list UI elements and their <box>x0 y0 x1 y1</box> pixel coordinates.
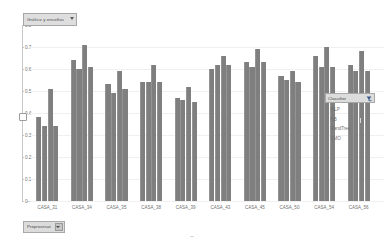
bar[interactable] <box>255 49 260 201</box>
chevron-down-icon <box>56 226 60 228</box>
pivot-chart-window: Gráfico y enseñas 0.80.70.60.50.40.30.20… <box>0 0 384 246</box>
bar-group[interactable] <box>36 25 58 201</box>
bar[interactable] <box>249 67 254 201</box>
legend-color-swatch <box>326 108 329 111</box>
bar[interactable] <box>53 126 58 201</box>
legend-title: Classifier <box>328 96 346 101</box>
bar[interactable] <box>88 67 93 201</box>
bar[interactable] <box>215 65 220 201</box>
bar[interactable] <box>221 56 226 201</box>
bar[interactable] <box>157 82 162 201</box>
bar[interactable] <box>192 102 197 201</box>
y-axis-tick-mark <box>22 91 24 92</box>
y-axis-tick-mark <box>22 157 24 158</box>
bar[interactable] <box>290 71 295 201</box>
chart-field-button-label: Gráfico y enseñas <box>27 17 64 22</box>
bar[interactable] <box>140 82 145 201</box>
chart-field-button[interactable]: Gráfico y enseñas <box>23 13 77 26</box>
legend-items: MLPNBRandTreeSMO <box>325 107 375 140</box>
bar[interactable] <box>105 84 110 201</box>
bar[interactable] <box>313 56 318 201</box>
y-axis-tick-mark <box>22 69 24 70</box>
bar-group[interactable] <box>278 25 300 201</box>
x-axis-tick-label: CASA_34 <box>72 205 92 210</box>
legend-item-label: NB <box>331 117 337 122</box>
x-axis-tick-label: CASA_43 <box>210 205 230 210</box>
x-axis-tick-label: CASA_50 <box>280 205 300 210</box>
x-axis-tick-label: CASA_35 <box>107 205 127 210</box>
y-axis-tick-mark <box>22 135 24 136</box>
legend-item-label: SMO <box>331 136 341 141</box>
bar[interactable] <box>226 65 231 201</box>
bar[interactable] <box>278 76 283 201</box>
bar[interactable] <box>209 69 214 201</box>
bar[interactable] <box>82 45 87 201</box>
bar-group[interactable] <box>140 25 162 201</box>
legend-color-swatch <box>326 118 329 121</box>
bar[interactable] <box>284 80 289 201</box>
bar[interactable] <box>71 60 76 201</box>
filter-dropdown-icon <box>366 96 372 102</box>
x-axis-tick-label: CASA_56 <box>349 205 369 210</box>
bar[interactable] <box>146 82 151 201</box>
bar[interactable] <box>117 71 122 201</box>
legend-color-swatch <box>326 127 329 130</box>
legend-item[interactable]: NB <box>325 117 375 122</box>
bar[interactable] <box>180 100 185 201</box>
legend-item-label: RandTree <box>331 126 351 131</box>
y-axis-tick-mark <box>22 201 24 202</box>
bar[interactable] <box>295 82 300 201</box>
bar[interactable] <box>151 65 156 201</box>
x-axis-tick-label: CASA_39 <box>176 205 196 210</box>
chevron-down-icon <box>70 17 74 20</box>
gridline <box>30 201 384 202</box>
legend-item-label: MLP <box>331 107 340 112</box>
bottom-edge-tick <box>190 236 194 237</box>
bar-group[interactable] <box>175 25 197 201</box>
bar-group[interactable] <box>244 25 266 201</box>
bar[interactable] <box>42 126 47 201</box>
x-axis-tick-label: CASA_45 <box>245 205 265 210</box>
right-edge-tick <box>360 118 361 123</box>
x-axis-tick-label: CASA_54 <box>314 205 334 210</box>
legend-panel: Classifier MLPNBRandTreeSMO <box>325 93 375 141</box>
bar[interactable] <box>111 93 116 201</box>
legend-item[interactable]: SMO <box>325 136 375 141</box>
y-axis-tick-mark <box>22 179 24 180</box>
y-axis-scale-handle[interactable] <box>19 113 27 121</box>
bar[interactable] <box>244 62 249 201</box>
bar[interactable] <box>36 117 41 201</box>
bar[interactable] <box>186 87 191 201</box>
preprocess-filter-dropdown[interactable]: Preprocesat <box>23 221 65 233</box>
preprocess-filter-label: Preprocesat <box>27 224 51 229</box>
bar[interactable] <box>48 89 53 201</box>
bar[interactable] <box>76 69 81 201</box>
bar[interactable] <box>261 62 266 201</box>
legend-item[interactable]: MLP <box>325 107 375 112</box>
x-axis-tick-label: CASA_31 <box>37 205 57 210</box>
legend-item[interactable]: RandTree <box>325 126 375 131</box>
bar-group[interactable] <box>209 25 231 201</box>
y-axis-tick-mark <box>22 47 24 48</box>
x-axis-tick-label: CASA_38 <box>141 205 161 210</box>
bar[interactable] <box>122 89 127 201</box>
bar[interactable] <box>319 67 324 201</box>
bar-group[interactable] <box>71 25 93 201</box>
bar-group[interactable] <box>105 25 127 201</box>
legend-color-swatch <box>326 137 329 140</box>
legend-filter-button[interactable]: Classifier <box>325 93 375 103</box>
bar[interactable] <box>175 98 180 201</box>
